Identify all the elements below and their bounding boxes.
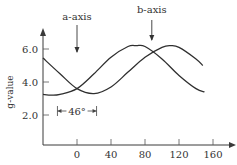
y-tick-label: 6.0 xyxy=(22,44,38,55)
annotation-arrowhead xyxy=(149,35,154,41)
y-tick-label: 2.0 xyxy=(22,110,38,121)
annotation-label: a-axis xyxy=(62,11,91,22)
x-tick-label: 0 xyxy=(74,149,80,160)
x-tick-label: 40 xyxy=(105,149,118,160)
annotation-arrowhead xyxy=(75,47,80,53)
x-axis-arrowhead xyxy=(229,142,236,148)
x-tick-label: 160 xyxy=(203,149,222,160)
y-axis-arrowhead xyxy=(40,28,46,36)
series-curve-2 xyxy=(43,45,205,95)
annotation-label: b-axis xyxy=(137,4,167,15)
x-ticks: 04080120160 xyxy=(74,139,223,160)
y-tick-label: 4.0 xyxy=(22,77,38,88)
chart: 04080120160 2.04.06.0 g-value a-axisb-ax… xyxy=(0,0,237,165)
span-label: 46° xyxy=(68,106,86,117)
span-arrowhead-right xyxy=(93,109,97,113)
y-axis-label: g-value xyxy=(5,75,15,108)
span-arrowhead-left xyxy=(57,109,61,113)
series-curve-1 xyxy=(43,46,203,94)
x-tick-label: 120 xyxy=(169,149,188,160)
x-tick-label: 80 xyxy=(139,149,152,160)
curves xyxy=(43,45,205,95)
y-ticks: 2.04.06.0 xyxy=(22,44,49,121)
annotations: a-axisb-axis46° xyxy=(57,4,166,117)
